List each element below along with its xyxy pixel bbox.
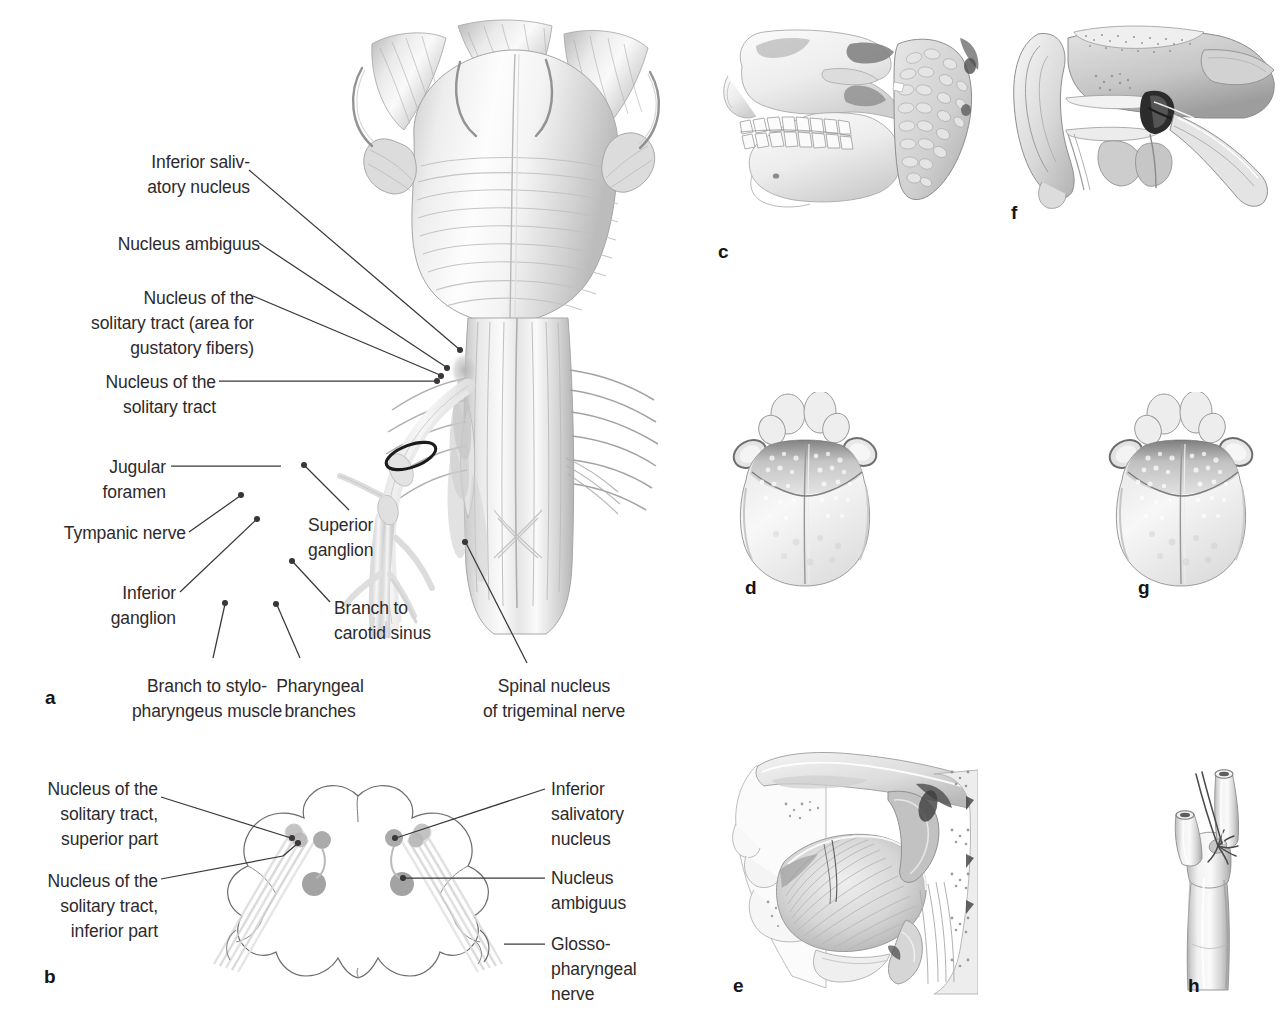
panel-letter-text: c [718, 241, 729, 262]
label-line: Superior [308, 515, 373, 535]
nucleus-solitary-inferior-left [293, 833, 308, 848]
label-nucleus-ambiguus-b: Nucleusambiguus [551, 866, 699, 916]
panel-g-tongue-artwork [1090, 392, 1288, 592]
label-line: Nucleus of the [144, 288, 254, 308]
panel-letter-d: d [745, 578, 757, 597]
external-carotid-shape [1175, 814, 1202, 866]
internal-carotid-shape [1215, 772, 1239, 848]
auricle-shape [1014, 33, 1074, 198]
panel-d-tongue-artwork [710, 392, 920, 592]
panel-c-skull-parotid-artwork [718, 24, 988, 236]
label-line: ganglion [111, 608, 176, 628]
label-line: Branch to [334, 598, 408, 618]
label-line: solitary tract [123, 397, 216, 417]
label-line: Spinal nucleus [498, 676, 610, 696]
label-line: superior part [61, 829, 158, 849]
auditory-tube-shape [1170, 114, 1267, 206]
panel-letter-text: f [1011, 202, 1017, 223]
label-line: Inferior saliv- [151, 152, 250, 172]
label-branch-to-carotid-sinus-a: Branch tocarotid sinus [334, 596, 494, 646]
label-line: solitary tract, [60, 804, 158, 824]
panel-letter-e: e [733, 976, 744, 995]
panel-letter-c: c [718, 242, 729, 261]
label-inferior-ganglion-a: Inferiorganglion [20, 581, 176, 631]
label-inferior-salivatory-nucleus-a: Inferior saliv-atory nucleus [20, 150, 250, 200]
label-line: Nucleus of the [48, 871, 158, 891]
panel-letter-text: g [1138, 577, 1150, 598]
label-line: branches [284, 701, 355, 721]
label-line: inferior part [71, 921, 158, 941]
common-carotid-shape [1187, 874, 1229, 990]
label-spinal-nucleus-of-trigeminal-nerve-a: Spinal nucleusof trigeminal nerve [437, 674, 671, 724]
label-line: atory nucleus [147, 177, 250, 197]
panel-letter-text: a [45, 687, 56, 708]
label-nucleus-solitary-tract-a: Nucleus of thesolitary tract [20, 370, 216, 420]
label-line: Nucleus ambiguus [118, 234, 260, 254]
panel-f-ear-tympanic-artwork [1008, 22, 1280, 220]
label-line: Glosso- [551, 934, 611, 954]
anatomy-figure: Inferior saliv-atory nucleus Nucleus amb… [0, 0, 1288, 1031]
panel-letter-a: a [45, 688, 56, 707]
label-inferior-salivatory-nucleus-b: Inferiorsalivatorynucleus [551, 777, 699, 852]
panel-b-cross-section-artwork [178, 778, 538, 1018]
label-line: nerve [551, 984, 594, 1004]
panel-h-carotid-artwork [1160, 766, 1256, 994]
label-line: foramen [103, 482, 167, 502]
label-line: ganglion [308, 540, 373, 560]
label-glossopharyngeal-nerve-b: Glosso-pharyngealnerve [551, 932, 703, 1007]
label-line: salivatory [551, 804, 624, 824]
label-line: ambiguus [551, 893, 626, 913]
label-line: nucleus [551, 829, 611, 849]
label-pharyngeal-branches-a: Pharyngealbranches [232, 674, 408, 724]
nucleus-ambiguus-right [390, 872, 414, 896]
label-line: gustatory fibers) [130, 338, 254, 358]
panel-letter-text: h [1188, 975, 1200, 996]
label-line: Inferior [551, 779, 605, 799]
label-nucleus-ambiguus-a: Nucleus ambiguus [20, 232, 260, 257]
label-line: Tympanic nerve [64, 523, 186, 543]
label-nucleus-solitary-tract-inferior-part-b: Nucleus of thesolitary tract,inferior pa… [0, 869, 158, 944]
panel-letter-h: h [1188, 976, 1200, 995]
label-line: Jugular [109, 457, 166, 477]
panel-letter-b: b [44, 967, 56, 986]
label-line: solitary tract (area for [91, 313, 254, 333]
label-line: Nucleus [551, 868, 614, 888]
label-line: pharyngeal [551, 959, 637, 979]
panel-letter-text: e [733, 975, 744, 996]
inferior-salivatory-nucleus-right [385, 829, 403, 847]
label-line: Nucleus of the [48, 779, 158, 799]
label-superior-ganglion-a: Superiorganglion [308, 513, 448, 563]
panel-letter-g: g [1138, 578, 1150, 597]
panel-letter-f: f [1011, 203, 1017, 222]
label-tympanic-nerve-a: Tympanic nerve [10, 521, 186, 546]
label-nucleus-solitary-tract-gustatory-a: Nucleus of thesolitary tract (area forgu… [10, 286, 254, 361]
nucleus-solitary-inferior-right [409, 833, 424, 848]
label-line: Inferior [122, 583, 176, 603]
label-line: of trigeminal nerve [483, 701, 625, 721]
label-nucleus-solitary-tract-superior-part-b: Nucleus of thesolitary tract,superior pa… [0, 777, 158, 852]
panel-e-oral-cavity-artwork [728, 744, 978, 1006]
panel-letter-text: d [745, 577, 757, 598]
label-line: carotid sinus [334, 623, 431, 643]
panel-letter-text: b [44, 966, 56, 987]
label-line: solitary tract, [60, 896, 158, 916]
label-line: Nucleus of the [106, 372, 216, 392]
label-jugular-foramen-a: Jugularforamen [20, 455, 166, 505]
nucleus-ambiguus-left [302, 872, 326, 896]
label-line: Pharyngeal [276, 676, 364, 696]
inferior-salivatory-nucleus-left [313, 831, 331, 849]
